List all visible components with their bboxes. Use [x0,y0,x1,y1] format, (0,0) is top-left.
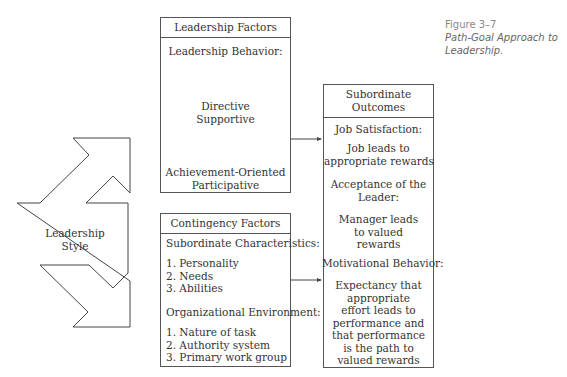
behavior-supportive: Supportive [161,113,290,126]
outcomes-header-line1: Subordinate [326,88,431,101]
job-satisfaction-body: Job leads to appropriate rewards [324,142,433,167]
text-line: Leader: [324,191,433,204]
subordinate-characteristics-heading: Subordinate Characteristics: [166,237,320,250]
leadership-style-label: Leadership Style [40,227,110,252]
text-line: Job leads to [324,142,433,155]
text-line: is the path to [324,342,433,355]
arrowhead-bottom [317,278,322,282]
list-item: 2. Needs [166,270,239,283]
job-satisfaction-heading: Job Satisfaction: [324,123,433,136]
contingency-factors-header: Contingency Factors [161,214,290,234]
list-item: 3. Primary work group [166,351,287,364]
leadership-factors-box: Leadership Factors Leadership Behavior: … [160,17,291,193]
text-line: performance and [324,317,433,330]
outcomes-header-line2: Outcomes [326,101,431,114]
leadership-factors-header: Leadership Factors [161,18,290,38]
leadership-behavior-heading: Leadership Behavior: [161,45,290,58]
subordinate-outcomes-box: Subordinate Outcomes Job Satisfaction: J… [323,84,434,368]
motivational-behavior-body: Expectancy that appropriate effort leads… [324,279,433,367]
text-line: appropriate rewards [324,155,433,168]
subordinate-characteristics-list: 1. Personality 2. Needs 3. Abilities [166,257,239,295]
text-line: Manager leads [324,213,433,226]
subordinate-outcomes-header: Subordinate Outcomes [324,85,433,118]
figure-title-line2: Leadership. [445,44,558,57]
list-item: 3. Abilities [166,282,239,295]
acceptance-heading: Acceptance of the Leader: [324,178,433,203]
contingency-factors-box: Contingency Factors Subordinate Characte… [160,213,291,367]
list-item: 1. Nature of task [166,326,287,339]
organizational-environment-heading: Organizational Environment: [166,306,321,319]
motivational-behavior-heading: Motivational Behavior: [322,257,435,270]
text-line: appropriate [324,292,433,305]
organizational-environment-list: 1. Nature of task 2. Authority system 3.… [166,326,287,364]
list-item: 1. Personality [166,257,239,270]
text-line: valued rewards [324,354,433,367]
text-line: rewards [324,238,433,251]
figure-number: Figure 3–7 [445,18,558,31]
arrowhead-top [317,137,322,141]
leadership-style-line1: Leadership [40,227,110,240]
text-line: to valued [324,226,433,239]
text-line: effort leads to [324,304,433,317]
figure-title-line1: Path-Goal Approach to [445,31,558,44]
behavior-group-2: Achievement-Oriented Participative [161,166,290,191]
text-line: Acceptance of the [324,178,433,191]
acceptance-body: Manager leads to valued rewards [324,213,433,251]
behavior-group-1: Directive Supportive [161,100,290,125]
text-line: that performance [324,329,433,342]
behavior-directive: Directive [161,100,290,113]
leadership-style-line2: Style [40,240,110,253]
behavior-achievement-oriented: Achievement-Oriented [161,166,290,179]
behavior-participative: Participative [161,179,290,192]
figure-caption: Figure 3–7 Path-Goal Approach to Leaders… [445,18,558,57]
list-item: 2. Authority system [166,339,287,352]
text-line: Expectancy that [324,279,433,292]
